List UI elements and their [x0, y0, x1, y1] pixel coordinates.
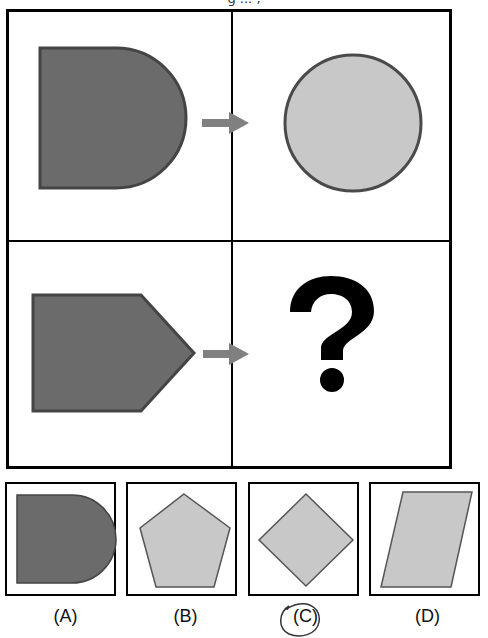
option-c-diamond	[259, 494, 353, 586]
option-d-parallelogram	[381, 492, 472, 587]
option-d-box[interactable]	[369, 482, 480, 596]
arrow-right-icon	[203, 343, 249, 365]
top-right-circle	[285, 55, 421, 191]
option-a-label[interactable]: (A)	[10, 606, 121, 627]
option-a-d-shape	[17, 495, 116, 583]
bottom-left-pentagon-shape	[33, 295, 194, 411]
hand-drawn-circle-mark	[275, 598, 335, 638]
arrow-right-icon	[202, 112, 249, 134]
option-b-box[interactable]	[126, 482, 237, 596]
option-b-pentagon	[140, 494, 230, 587]
option-b-label[interactable]: (B)	[130, 606, 241, 627]
top-left-d-shape	[40, 48, 186, 188]
option-a-box[interactable]	[5, 482, 116, 596]
option-c-box[interactable]	[248, 482, 359, 596]
cropped-title: g ... ,	[0, 0, 488, 6]
question-mark-icon	[290, 276, 374, 392]
puzzle-matrix	[6, 9, 452, 469]
option-d-label[interactable]: (D)	[372, 606, 483, 627]
